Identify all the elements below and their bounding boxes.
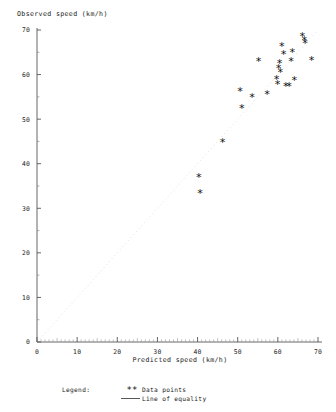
scatter-plot: Observed speed (km/h) 010203040506070 01… <box>0 0 336 412</box>
data-point: * <box>302 37 309 50</box>
legend-label-data-points: Data points <box>142 386 186 394</box>
data-point: * <box>237 85 244 98</box>
x-tick-label: 60 <box>274 348 282 356</box>
data-point: * <box>238 102 245 115</box>
x-tick-label: 40 <box>194 348 202 356</box>
y-axis-title: Observed speed (km/h) <box>17 10 108 18</box>
x-tick-label: 20 <box>113 348 121 356</box>
data-point: * <box>197 187 204 200</box>
x-tick-label: 70 <box>314 348 322 356</box>
x-axis-ticks: 010203040506070 <box>35 337 322 356</box>
data-point: * <box>264 88 271 101</box>
x-tick-label: 10 <box>73 348 81 356</box>
legend-label-line-of-equality: Line of equality <box>142 395 206 403</box>
data-point: * <box>289 46 296 59</box>
data-point: * <box>277 66 284 79</box>
y-tick-label: 20 <box>22 249 30 257</box>
x-axis-title: Predicted speed (km/h) <box>132 356 227 364</box>
data-point: * <box>274 78 281 91</box>
x-tick-label: 0 <box>35 348 39 356</box>
y-tick-label: 40 <box>22 160 30 168</box>
x-tick-label: 30 <box>153 348 161 356</box>
y-tick-label: 70 <box>22 26 30 34</box>
y-tick-label: 50 <box>22 116 30 124</box>
y-tick-label: 30 <box>22 205 30 213</box>
data-point: * <box>255 55 262 68</box>
data-point: * <box>195 171 202 184</box>
chart-canvas: Observed speed (km/h) 010203040506070 01… <box>0 0 336 412</box>
data-point: * <box>308 54 315 67</box>
x-tick-label: 50 <box>234 348 242 356</box>
y-axis-ticks: 010203040506070 <box>22 26 41 346</box>
legend-heading: Legend: <box>62 386 90 394</box>
legend-marker-sample: ** <box>127 385 138 395</box>
data-point: * <box>291 74 298 87</box>
y-tick-label: 0 <box>26 338 30 346</box>
data-point: * <box>249 91 256 104</box>
y-tick-label: 10 <box>22 294 30 302</box>
data-point: * <box>219 136 226 149</box>
data-points-group: ************************ <box>195 30 314 200</box>
data-point: * <box>280 48 287 61</box>
y-tick-label: 60 <box>22 71 30 79</box>
